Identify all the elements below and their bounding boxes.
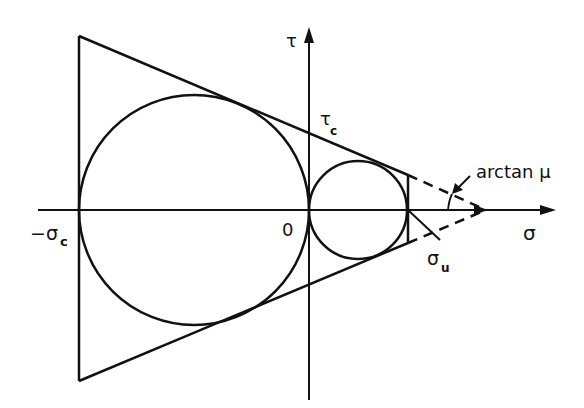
tau-axis-arrow-icon [304, 27, 314, 43]
sigma-axis-label: σ [523, 221, 536, 245]
arctan-mu-label: arctan μ [476, 161, 551, 182]
sigma-u-subscript: u [441, 261, 450, 275]
sigma-axis-arrow-icon [540, 205, 556, 215]
sigma-u-label: σ [427, 247, 439, 269]
lower-envelope-dashed [408, 210, 486, 243]
tau-c-subscript: c [330, 124, 337, 138]
lower-envelope [79, 243, 408, 381]
neg-sigma-c-label: −σ [30, 222, 58, 244]
upper-envelope-dashed [408, 175, 486, 210]
neg-sigma-c-subscript: c [60, 234, 68, 249]
angle-arc [448, 194, 452, 210]
origin-label: 0 [282, 219, 293, 240]
mohr-diagram: τ σ 0 −σ c τ c σ u arctan μ [0, 0, 584, 408]
tau-axis-label: τ [286, 30, 297, 51]
